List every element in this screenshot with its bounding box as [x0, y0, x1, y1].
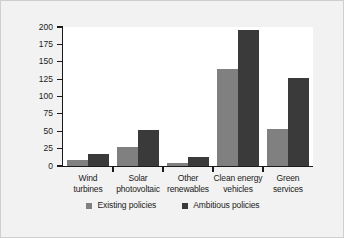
legend-swatch-icon [182, 203, 188, 209]
bar [188, 157, 209, 166]
x-axis-category-label: Greenservices [263, 173, 313, 194]
bar [238, 30, 259, 166]
x-axis-tick [262, 167, 263, 172]
bar [267, 129, 288, 166]
legend-entry[interactable]: Existing policies [86, 201, 156, 210]
x-axis-tick [162, 167, 163, 172]
x-axis-category-label-line: photovoltaic [113, 184, 163, 195]
legend-swatch-icon [86, 203, 92, 209]
x-axis-category-label: Solarphotovoltaic [113, 173, 163, 194]
y-axis-tick-label: 125 [13, 75, 53, 84]
y-axis-tick-label: 150 [13, 57, 53, 66]
bar [117, 147, 138, 166]
bar [217, 69, 238, 166]
bar [167, 163, 188, 166]
x-axis-category-label-line: services [263, 184, 313, 195]
legend-label: Existing policies [97, 201, 156, 210]
x-axis-category-label: Clean energyvehicles [213, 173, 263, 194]
y-axis-tick-label: 0 [13, 162, 53, 171]
y-axis-tick-label: 25 [13, 144, 53, 153]
x-axis-category-label-line: Clean energy [213, 173, 263, 184]
x-axis-category-label: Otherrenewables [163, 173, 213, 194]
x-axis-category-label-line: Green [263, 173, 313, 184]
legend-label: Ambitious policies [193, 201, 259, 210]
x-axis-tick [112, 167, 113, 172]
x-axis-category-label-line: renewables [163, 184, 213, 195]
bar [138, 130, 159, 166]
chart-figure: US$ 2009 (billions) 02550751001251501752… [0, 0, 344, 238]
y-axis-tick-label: 50 [13, 127, 53, 136]
y-axis-tick-label: 200 [13, 23, 53, 32]
x-axis-tick [212, 167, 213, 172]
y-axis-tick-label: 100 [13, 92, 53, 101]
x-axis-category-label-line: Solar [113, 173, 163, 184]
y-axis-tick-label: 175 [13, 40, 53, 49]
plot-area [63, 27, 313, 166]
y-axis-tick-label: 75 [13, 109, 53, 118]
bar [67, 160, 88, 166]
x-axis-category-label-line: vehicles [213, 184, 263, 195]
x-axis-category-label-line: Other [163, 173, 213, 184]
chart-legend: Existing policiesAmbitious policies [1, 201, 344, 210]
x-axis-category-label-line: Wind [63, 173, 113, 184]
x-axis-category-label-line: turbines [63, 184, 113, 195]
legend-entry[interactable]: Ambitious policies [182, 201, 259, 210]
x-axis-category-label: Windturbines [63, 173, 113, 194]
bar [288, 78, 309, 166]
bar [88, 154, 109, 166]
